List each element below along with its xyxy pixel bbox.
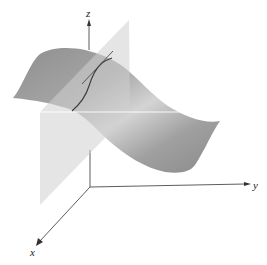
y-axis [90, 184, 245, 187]
y-axis-label: y [252, 179, 258, 191]
z-axis-arrow-icon [87, 19, 91, 26]
x-axis-label: x [29, 246, 35, 258]
3d-surface-diagram: z y x [0, 0, 267, 265]
vertical-plane [40, 20, 130, 205]
y-axis-arrow-icon [244, 182, 251, 186]
z-axis-label: z [85, 7, 91, 19]
